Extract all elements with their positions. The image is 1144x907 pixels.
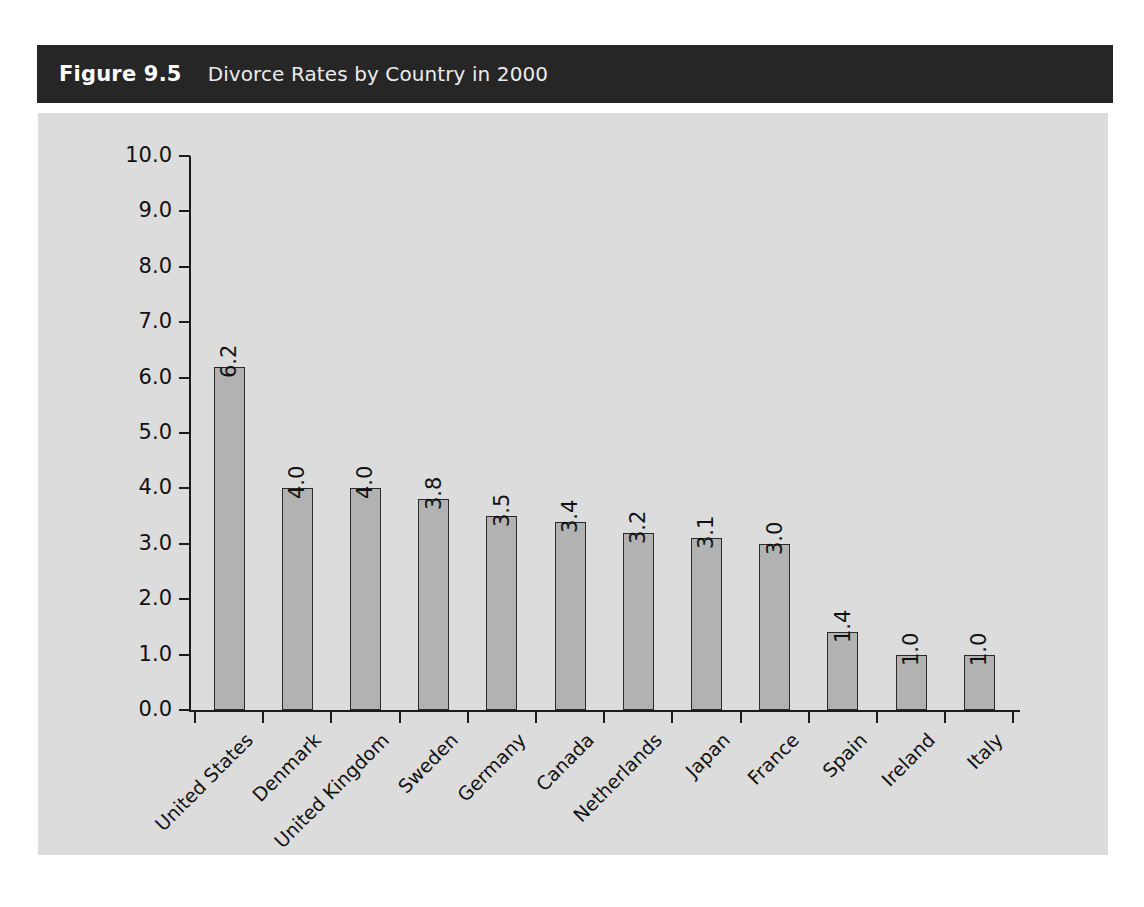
y-axis-line	[189, 156, 191, 712]
chart-panel: 10.09.08.07.06.05.04.03.02.01.00.0 6.24.…	[38, 113, 1108, 855]
y-tick-label: 5.0	[92, 422, 172, 443]
bar	[759, 544, 790, 710]
bar-value-label: 3.0	[765, 521, 786, 554]
y-tick-label: 4.0	[92, 477, 172, 498]
bar-value-label: 1.0	[901, 632, 922, 665]
y-tick-label: 6.0	[92, 367, 172, 388]
y-tick-label: 7.0	[92, 311, 172, 332]
bar-value-label: 6.2	[219, 344, 240, 377]
y-tick-label: 8.0	[92, 256, 172, 277]
x-tick-mark	[467, 712, 469, 723]
bar-value-label: 3.1	[696, 516, 717, 549]
x-tick-mark	[330, 712, 332, 723]
x-tick-mark	[399, 712, 401, 723]
bar-value-label: 3.5	[492, 494, 513, 527]
y-tick-mark	[179, 598, 190, 600]
y-tick-label: 9.0	[92, 200, 172, 221]
y-tick-mark	[179, 155, 190, 157]
bar	[486, 516, 517, 710]
x-tick-mark	[535, 712, 537, 723]
bar	[214, 367, 245, 710]
figure-title: Divorce Rates by Country in 2000	[208, 62, 549, 86]
y-tick-mark	[179, 543, 190, 545]
bar	[555, 522, 586, 710]
bar	[623, 533, 654, 710]
bar	[282, 488, 313, 710]
bar-value-label: 1.0	[969, 632, 990, 665]
x-tick-mark	[876, 712, 878, 723]
bar	[350, 488, 381, 710]
x-tick-mark	[1012, 712, 1014, 723]
y-tick-mark	[179, 377, 190, 379]
y-tick-mark	[179, 266, 190, 268]
x-tick-mark	[944, 712, 946, 723]
figure-header-bar: Figure 9.5 Divorce Rates by Country in 2…	[37, 45, 1113, 103]
bar	[827, 632, 858, 710]
x-tick-mark	[194, 712, 196, 723]
figure-number-label: Figure 9.5	[59, 62, 182, 86]
y-tick-mark	[179, 321, 190, 323]
y-tick-mark	[179, 432, 190, 434]
bar-value-label: 4.0	[355, 466, 376, 499]
bar	[691, 538, 722, 710]
y-tick-label: 10.0	[92, 145, 172, 166]
x-tick-mark	[262, 712, 264, 723]
bar	[418, 499, 449, 710]
x-tick-mark	[808, 712, 810, 723]
bar-value-label: 3.4	[560, 499, 581, 532]
bar-chart-plot: 10.09.08.07.06.05.04.03.02.01.00.0 6.24.…	[38, 113, 1108, 855]
bar-value-label: 3.2	[628, 510, 649, 543]
x-tick-mark	[671, 712, 673, 723]
y-tick-mark	[179, 210, 190, 212]
figure-block: Figure 9.5 Divorce Rates by Country in 2…	[37, 45, 1113, 103]
y-tick-label: 2.0	[92, 588, 172, 609]
y-tick-label: 0.0	[92, 699, 172, 720]
y-tick-mark	[179, 709, 190, 711]
bar-value-label: 3.8	[424, 477, 445, 510]
x-tick-mark	[603, 712, 605, 723]
y-tick-mark	[179, 654, 190, 656]
y-tick-mark	[179, 487, 190, 489]
x-tick-mark	[740, 712, 742, 723]
bar-value-label: 1.4	[833, 610, 854, 643]
y-tick-label: 3.0	[92, 533, 172, 554]
bar-value-label: 4.0	[287, 466, 308, 499]
y-tick-label: 1.0	[92, 644, 172, 665]
